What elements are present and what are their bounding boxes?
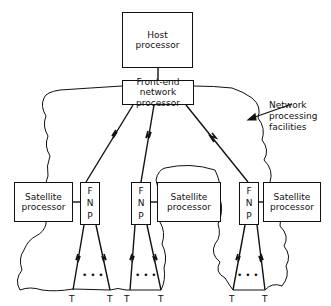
satellite-processor-box-2: Satellite processor	[157, 182, 221, 222]
ellipsis-2: • • •	[135, 270, 157, 281]
terminal-2b: T	[158, 294, 164, 305]
terminal-3a: T	[229, 294, 235, 305]
satellite-processor-label-2: Satellite processor	[167, 192, 211, 213]
host-processor-label: Host processor	[136, 30, 180, 51]
front-end-processor-label: Front-end network processor	[123, 77, 193, 108]
fnp-label-2: F N P	[138, 185, 145, 221]
fnp-label-1: F N P	[87, 185, 94, 221]
ellipsis-1: • • •	[82, 270, 104, 281]
satellite-processor-box-3: Satellite processor	[263, 182, 321, 222]
fnp-box-2: F N P	[131, 182, 151, 225]
terminal-2a: T	[124, 294, 130, 305]
fnp-box-1: F N P	[80, 182, 100, 225]
satellite-processor-box-1: Satellite processor	[14, 182, 73, 222]
network-diagram: Host processor Front-end network process…	[0, 0, 331, 306]
ellipsis-3: • • •	[237, 270, 259, 281]
front-end-processor-box: Front-end network processor	[122, 80, 194, 105]
network-processing-facilities-label: Network processing facilities	[269, 100, 318, 132]
terminal-1b: T	[107, 294, 113, 305]
fnp-box-3: F N P	[239, 182, 259, 225]
terminal-1a: T	[69, 294, 75, 305]
satellite-processor-label-1: Satellite processor	[22, 192, 66, 213]
host-processor-box: Host processor	[122, 12, 193, 68]
satellite-processor-label-3: Satellite processor	[270, 192, 314, 213]
terminal-3b: T	[262, 294, 268, 305]
fnp-label-3: F N P	[246, 185, 253, 221]
